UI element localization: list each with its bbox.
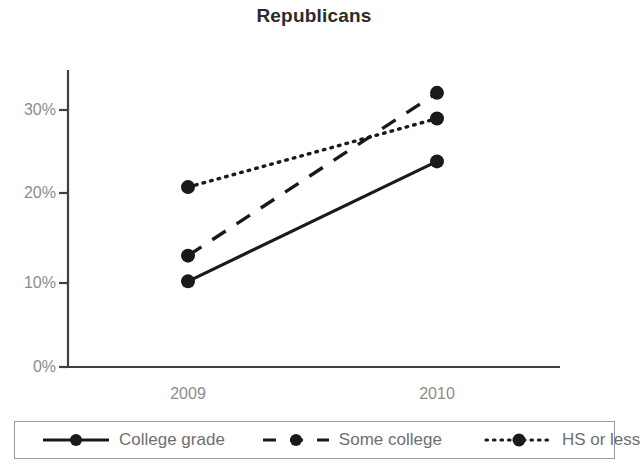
data-point-hs-or-less-2010[interactable] <box>430 112 444 126</box>
legend-item-college-grade[interactable]: College grade <box>39 422 225 458</box>
series-layer <box>188 93 437 281</box>
series-line-college-grade <box>188 161 437 281</box>
legend-label-some-college: Some college <box>339 430 442 450</box>
legend-swatch-dashed-line-icon <box>259 430 333 450</box>
legend-item-hs-or-less[interactable]: HS or less <box>482 422 640 458</box>
data-point-college-grade-2009[interactable] <box>181 274 195 288</box>
y-axis-tick-marks <box>59 110 68 367</box>
legend-swatch-solid-line-icon <box>39 430 113 450</box>
data-point-hs-or-less-2009[interactable] <box>181 180 195 194</box>
legend-label-hs-or-less: HS or less <box>562 430 640 450</box>
legend-swatch-dotted-line-icon <box>482 430 556 450</box>
series-line-some-college <box>188 93 437 256</box>
legend-label-college-grade: College grade <box>119 430 225 450</box>
data-point-college-grade-2010[interactable] <box>430 154 444 168</box>
legend-item-some-college[interactable]: Some college <box>259 422 442 458</box>
data-point-some-college-2009[interactable] <box>181 249 195 263</box>
series-line-hs-or-less <box>188 119 437 188</box>
marker-layer <box>181 86 444 288</box>
chart-legend: College grade Some college HS or less <box>14 421 615 459</box>
data-point-some-college-2010[interactable] <box>430 86 444 100</box>
